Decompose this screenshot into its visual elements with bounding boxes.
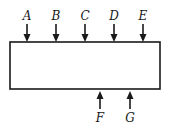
arrow-g: G <box>125 91 135 125</box>
label-g: G <box>125 111 135 125</box>
block-diagram: A B C D E F G <box>0 0 172 132</box>
arrowhead-down-icon <box>24 34 31 42</box>
arrow-e: E <box>138 9 148 42</box>
label-a: A <box>22 9 32 23</box>
arrowhead-down-icon <box>111 34 118 42</box>
arrowhead-down-icon <box>53 34 60 42</box>
arrowhead-down-icon <box>82 34 89 42</box>
arrowhead-up-icon <box>127 91 134 99</box>
label-e: E <box>138 9 148 23</box>
arrowhead-down-icon <box>140 34 147 42</box>
arrowhead-up-icon <box>97 91 104 99</box>
arrow-f: F <box>95 91 105 125</box>
arrow-c: C <box>80 9 89 42</box>
label-f: F <box>95 111 105 125</box>
label-d: D <box>108 9 119 23</box>
label-b: B <box>51 9 61 23</box>
arrow-b: B <box>51 9 61 42</box>
arrow-d: D <box>108 9 119 42</box>
arrow-a: A <box>22 9 32 42</box>
label-c: C <box>80 9 89 23</box>
block-box <box>10 42 160 89</box>
